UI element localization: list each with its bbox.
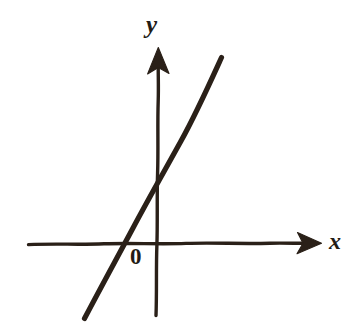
x-axis-line <box>29 243 312 245</box>
plotted-line-series <box>85 58 222 319</box>
origin-label: 0 <box>130 245 142 268</box>
x-axis-label: x <box>329 229 341 253</box>
y-axis-label: y <box>146 12 157 37</box>
x-axis <box>29 233 322 254</box>
plotted-line <box>85 58 222 319</box>
line-graph-figure: y x 0 <box>0 0 356 331</box>
graph-canvas <box>0 0 356 331</box>
